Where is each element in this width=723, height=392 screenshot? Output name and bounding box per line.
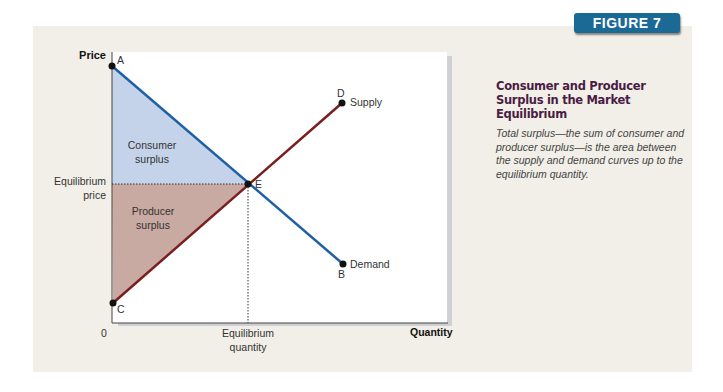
point-b-label: B <box>338 268 345 280</box>
x-axis-label: Quantity <box>410 326 453 338</box>
equilibrium-price-label-line2: price <box>40 189 106 201</box>
point-b-marker <box>340 261 347 268</box>
producer-surplus-label-line1: Producer <box>123 205 183 217</box>
point-c-marker <box>110 300 117 307</box>
point-e-marker <box>245 181 252 188</box>
figure-description: Total surplus—the sum of consumer and pr… <box>496 127 686 181</box>
equilibrium-quantity-label-line1: Equilibrium <box>213 327 283 339</box>
consumer-surplus-label-line1: Consumer <box>122 139 182 151</box>
point-a-marker <box>109 63 116 70</box>
figure-caption: Consumer and Producer Surplus in the Mar… <box>496 79 686 181</box>
surplus-chart <box>0 0 723 392</box>
y-axis-label: Price <box>60 49 106 61</box>
point-d-marker <box>339 100 346 107</box>
demand-curve-label: Demand <box>350 258 390 270</box>
point-a-label: A <box>117 54 124 66</box>
origin-label: 0 <box>101 327 107 339</box>
point-c-label: C <box>117 303 125 315</box>
producer-surplus-label-line2: surplus <box>123 219 183 231</box>
equilibrium-price-label-line1: Equilibrium <box>40 175 106 187</box>
point-d-label: D <box>337 87 345 99</box>
equilibrium-quantity-label-line2: quantity <box>213 341 283 353</box>
point-e-label: E <box>255 178 262 190</box>
figure-title: Consumer and Producer Surplus in the Mar… <box>496 79 686 121</box>
supply-curve-label: Supply <box>350 96 382 108</box>
consumer-surplus-label-line2: surplus <box>122 153 182 165</box>
